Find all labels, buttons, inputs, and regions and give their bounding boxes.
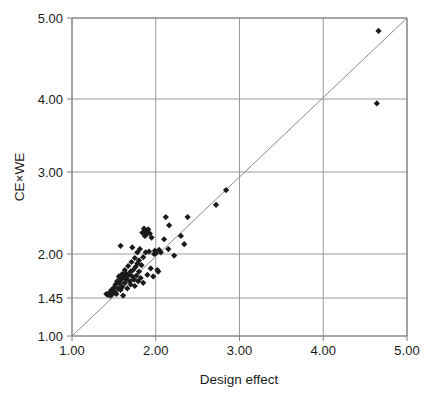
y-tick-label: 1.45 (38, 291, 63, 306)
y-tick-label: 2.00 (38, 247, 63, 262)
x-tick-label: 2.00 (143, 343, 168, 358)
x-tick-label: 4.00 (311, 343, 336, 358)
chart-background (0, 0, 431, 398)
x-tick-label: 1.00 (59, 343, 84, 358)
x-tick-label: 5.00 (394, 343, 419, 358)
y-tick-label: 1.00 (38, 329, 63, 344)
y-tick-label: 3.00 (38, 165, 63, 180)
chart-canvas: 1.002.003.004.005.00 1.001.452.003.004.0… (0, 0, 431, 398)
x-tick-label: 3.00 (227, 343, 252, 358)
scatter-chart-figure: 1.002.003.004.005.00 1.001.452.003.004.0… (0, 0, 431, 398)
y-axis-title: CE×WE (12, 153, 27, 201)
y-tick-label: 4.00 (38, 92, 63, 107)
y-tick-label: 5.00 (38, 11, 63, 26)
x-axis-title: Design effect (200, 372, 279, 387)
